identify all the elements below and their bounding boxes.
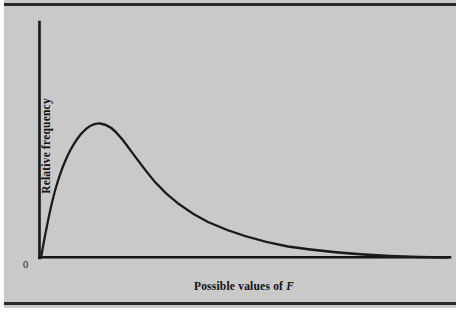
figure-container: Relative frequency Possible values of F … <box>0 0 461 312</box>
x-axis-label-variable: F <box>286 280 294 292</box>
y-axis-label: Relative frequency <box>40 56 52 236</box>
density-plot <box>0 0 461 312</box>
x-axis-label-text: Possible values of <box>194 280 283 292</box>
x-axis-label: Possible values of F <box>38 280 450 292</box>
origin-tick-label: 0 <box>23 260 28 271</box>
f-distribution-curve <box>41 123 448 257</box>
